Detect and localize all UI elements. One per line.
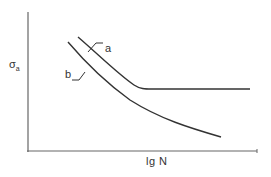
curve-a: [78, 37, 250, 89]
curve-b-label: b: [65, 68, 71, 80]
sn-chart: σa lg N a b: [0, 0, 271, 177]
leader-line-b: [72, 72, 85, 80]
chart-canvas: [0, 0, 271, 177]
y-axis-label: σa: [9, 58, 20, 72]
x-axis-label: lg N: [146, 155, 168, 167]
curve-a-label: a: [105, 42, 111, 54]
